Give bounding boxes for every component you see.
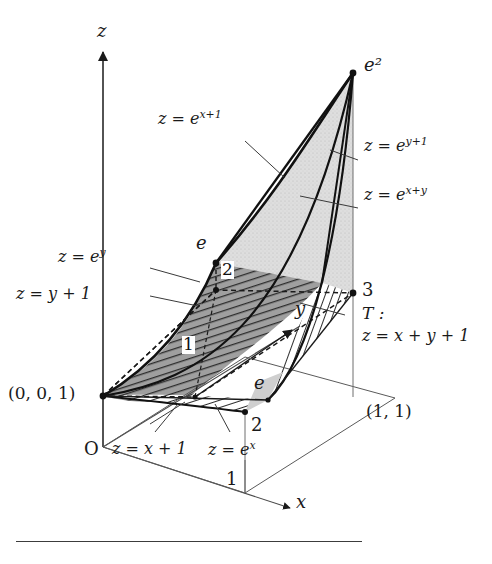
dot-3 xyxy=(350,290,357,297)
label-e-left: e xyxy=(196,234,207,252)
figure-canvas xyxy=(0,0,492,564)
leader-z-ey xyxy=(150,268,200,282)
label-point-001: (0, 0, 1) xyxy=(8,385,75,402)
label-point-11: (1, 1) xyxy=(366,403,412,420)
label-e-inner: e xyxy=(254,374,265,392)
bottom-divider xyxy=(16,541,362,542)
label-z-exy: z = ex+y xyxy=(364,186,427,203)
label-z-y-plus-1: z = y + 1 xyxy=(16,286,91,302)
label-2-front: 2 xyxy=(251,416,262,434)
label-x-tick-1: 1 xyxy=(226,470,237,488)
dot-apex-e2 xyxy=(350,70,357,77)
leader-zx1b xyxy=(150,402,185,424)
axis-label-y: y xyxy=(295,300,305,318)
label-T-equation: z = x + y + 1 xyxy=(362,328,469,344)
axis-label-z: z xyxy=(97,22,106,40)
dot-1-plane xyxy=(192,394,197,399)
origin-label: O xyxy=(84,440,99,458)
label-z-ey: z = ey xyxy=(58,248,106,265)
label-2-top: 2 xyxy=(221,261,234,279)
label-z-ex-plus-1: z = ex+1 xyxy=(158,110,222,127)
dot-001 xyxy=(100,393,107,400)
label-z-ey-plus-1: z = ey+1 xyxy=(364,137,428,154)
leader-z-y1 xyxy=(150,296,198,306)
dot-e-left xyxy=(213,260,220,267)
leader-z-ex1 xyxy=(245,141,285,178)
label-T-name: T : xyxy=(362,305,384,322)
dot-2-front xyxy=(242,409,248,415)
dot-e-inner xyxy=(265,397,270,402)
label-apex-e2: e² xyxy=(364,56,382,74)
axis-label-x: x xyxy=(296,493,306,511)
label-3: 3 xyxy=(362,281,373,299)
dot-2-top xyxy=(213,287,219,293)
label-z-x-plus-1: z = x + 1 xyxy=(112,441,187,457)
label-z-ex: z = ex xyxy=(208,441,256,458)
label-1-plane: 1 xyxy=(182,336,195,354)
